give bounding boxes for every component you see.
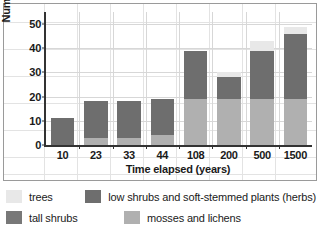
x-axis-tick-label: 500 [253, 149, 270, 161]
x-axis-tick-mark [79, 145, 80, 149]
legend-label-trees: trees [29, 191, 53, 203]
chart-legend: trees low shrubs and soft-stemmed plants… [6, 186, 316, 228]
plot-area: 01020304050 102333441082005001500 [44, 12, 312, 147]
x-axis-title: Time elapsed (years) [40, 163, 316, 175]
legend-label-low-shrubs-herbs: low shrubs and soft-stemmed plants (herb… [108, 191, 316, 203]
x-axis-tick-label: 23 [90, 149, 102, 161]
y-axis-tick-label: 10 [29, 115, 41, 127]
y-axis-tick-label: 30 [29, 66, 41, 78]
x-axis-tick-label: 33 [123, 149, 135, 161]
y-axis-title: Number of species [0, 0, 16, 40]
legend-row-2: tall shrubs mosses and lichens [6, 207, 316, 228]
x-axis-tick-label: 44 [157, 149, 169, 161]
legend-label-mosses-lichens: mosses and lichens [147, 212, 241, 224]
legend-item-mosses-lichens: mosses and lichens [124, 211, 241, 224]
y-axis-tick-label: 20 [29, 91, 41, 103]
x-axis-tick-label: 10 [57, 149, 69, 161]
chart-screenshot: Number of species 01020304050 1023334410… [0, 0, 320, 232]
legend-item-low-shrubs-herbs: low shrubs and soft-stemmed plants (herb… [85, 190, 316, 203]
x-axis-tick-mark [146, 145, 147, 149]
legend-item-trees: trees [6, 190, 85, 203]
x-axis-tick-mark [212, 145, 213, 149]
x-axis-ticks: 102333441082005001500 [46, 12, 312, 145]
y-axis-title-wrap: Number of species [2, 18, 18, 148]
legend-item-tall-shrubs: tall shrubs [6, 211, 124, 224]
x-axis-tick-label: 200 [220, 149, 237, 161]
legend-swatch-low-shrubs-herbs [85, 190, 101, 203]
y-axis-tick-label: 0 [35, 139, 41, 151]
legend-row-1: trees low shrubs and soft-stemmed plants… [6, 186, 316, 207]
x-axis-tick-mark [279, 145, 280, 149]
x-axis-tick-mark [113, 145, 114, 149]
legend-label-tall-shrubs: tall shrubs [29, 212, 77, 224]
y-axis-tick-label: 50 [29, 18, 41, 30]
x-axis-tick-label: 1500 [284, 149, 307, 161]
x-axis-tick-label: 108 [187, 149, 204, 161]
x-axis-tick-mark [179, 145, 180, 149]
legend-swatch-mosses-lichens [124, 211, 140, 224]
legend-swatch-trees [6, 190, 22, 203]
legend-swatch-tall-shrubs [6, 211, 22, 224]
y-axis-tick-label: 40 [29, 42, 41, 54]
x-axis-tick-mark [246, 145, 247, 149]
